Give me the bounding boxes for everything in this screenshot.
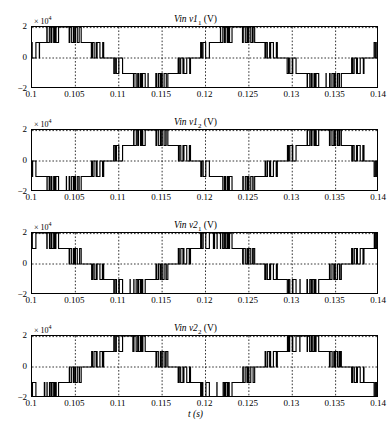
x-tick-label: 0.11 (110, 192, 125, 202)
waveform-svg-3 (32, 233, 378, 294)
x-tick-label: 0.1 (25, 192, 36, 202)
waveform-trace (32, 130, 378, 191)
gridlines-2 (32, 130, 378, 191)
waveform-svg-4 (32, 336, 378, 397)
x-tick-label: 0.11 (110, 398, 125, 408)
x-tick-label: 0.125 (238, 89, 258, 99)
x-tick-label: 0.125 (238, 295, 258, 305)
y-axis-multiplier-3: × 104 (34, 221, 52, 232)
y-tick-label: 2 (0, 21, 27, 31)
x-tick-label: 0.105 (64, 89, 84, 99)
x-tick-label: 0.14 (370, 295, 386, 305)
x-tick-label: 0.13 (283, 89, 299, 99)
x-tick-label: 0.1 (25, 89, 36, 99)
y-axis-multiplier-exponent: 4 (49, 118, 52, 124)
y-axis-multiplier-text: × 10 (34, 223, 49, 232)
x-tick-label: 0.135 (325, 398, 345, 408)
x-axis-label: t (s) (0, 409, 391, 419)
x-tick-label: 0.105 (64, 295, 84, 305)
subplot-title-main: Vin v1 (174, 14, 198, 24)
y-axis-multiplier-text: × 10 (34, 326, 49, 335)
x-tick-label: 0.125 (238, 398, 258, 408)
x-tick-label: 0.135 (325, 295, 345, 305)
y-axis-multiplier-2: × 104 (34, 118, 52, 129)
x-tick-label: 0.13 (283, 192, 299, 202)
y-tick-label: 2 (0, 227, 27, 237)
y-tick-label: −2 (0, 186, 27, 196)
x-tick-label: 0.12 (197, 192, 213, 202)
x-tick-label: 0.12 (197, 89, 213, 99)
subplot-title-main: Vin v2 (174, 220, 198, 230)
y-tick-label: −2 (0, 83, 27, 93)
subplot-title-1: Vin v11 (V) (0, 14, 391, 27)
waveform-svg-2 (32, 130, 378, 191)
x-tick-label: 0.14 (370, 398, 386, 408)
x-tick-label: 0.1 (25, 295, 36, 305)
subplot-title-unit: (V) (201, 14, 217, 24)
x-tick-label: 0.14 (370, 192, 386, 202)
x-tick-label: 0.11 (110, 89, 125, 99)
plot-area-3 (31, 232, 378, 294)
x-tick-label: 0.13 (283, 295, 299, 305)
x-axis-label-text: t (s) (188, 409, 203, 419)
x-tick-label: 0.115 (151, 295, 171, 305)
waveform-svg-1 (32, 27, 378, 88)
subplot-title-2: Vin v12 (V) (0, 117, 391, 130)
y-tick-label: −2 (0, 392, 27, 402)
y-tick-label: 0 (0, 361, 27, 371)
figure-root: Vin v11 (V)× 104−2020.10.1050.110.1150.1… (0, 0, 391, 429)
y-tick-label: 2 (0, 124, 27, 134)
x-tick-label: 0.115 (151, 192, 171, 202)
y-tick-label: 0 (0, 258, 27, 268)
x-tick-label: 0.12 (197, 295, 213, 305)
subplot-title-3: Vin v21 (V) (0, 220, 391, 233)
x-tick-label: 0.11 (110, 295, 125, 305)
x-tick-label: 0.135 (325, 89, 345, 99)
subplot-title-main: Vin v2 (174, 323, 198, 333)
plot-area-2 (31, 129, 378, 191)
x-tick-label: 0.135 (325, 192, 345, 202)
subplot-title-unit: (V) (201, 323, 217, 333)
subplot-title-unit: (V) (201, 117, 217, 127)
y-axis-multiplier-exponent: 4 (49, 324, 52, 330)
x-tick-label: 0.115 (151, 89, 171, 99)
plot-area-4 (31, 335, 378, 397)
y-axis-multiplier-4: × 104 (34, 324, 52, 335)
x-tick-label: 0.115 (151, 398, 171, 408)
y-axis-multiplier-exponent: 4 (49, 221, 52, 227)
subplot-title-unit: (V) (201, 220, 217, 230)
y-axis-multiplier-1: × 104 (34, 15, 52, 26)
y-tick-label: 2 (0, 330, 27, 340)
x-tick-label: 0.14 (370, 89, 386, 99)
y-axis-multiplier-exponent: 4 (49, 15, 52, 21)
subplot-title-main: Vin v1 (174, 117, 198, 127)
y-tick-label: −2 (0, 289, 27, 299)
x-tick-label: 0.1 (25, 398, 36, 408)
y-axis-multiplier-text: × 10 (34, 17, 49, 26)
waveform-trace (32, 336, 378, 397)
y-tick-label: 0 (0, 155, 27, 165)
subplot-title-4: Vin v22 (V) (0, 323, 391, 336)
x-tick-label: 0.105 (64, 398, 84, 408)
x-tick-label: 0.125 (238, 192, 258, 202)
y-tick-label: 0 (0, 52, 27, 62)
x-tick-label: 0.13 (283, 398, 299, 408)
x-tick-label: 0.105 (64, 192, 84, 202)
waveform-trace (32, 233, 378, 294)
x-tick-label: 0.12 (197, 398, 213, 408)
y-axis-multiplier-text: × 10 (34, 120, 49, 129)
plot-area-1 (31, 26, 378, 88)
waveform-trace (32, 27, 378, 88)
